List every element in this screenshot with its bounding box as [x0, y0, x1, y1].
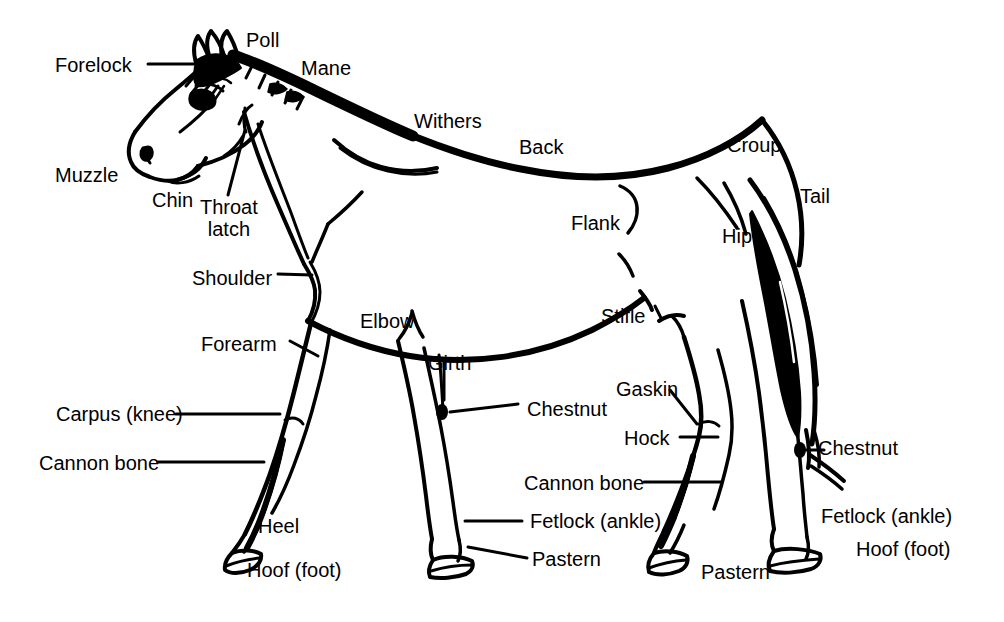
label-fetlock-front: Fetlock (ankle)	[530, 510, 661, 532]
label-chestnut-front: Chestnut	[527, 398, 607, 420]
label-pastern-hind: Pastern	[701, 561, 770, 583]
label-forelock: Forelock	[55, 54, 132, 76]
label-hoof-foot-hind: Hoof (foot)	[856, 538, 950, 560]
label-chin: Chin	[152, 189, 193, 211]
label-gaskin: Gaskin	[616, 378, 678, 400]
label-stifle: Stifle	[601, 305, 645, 327]
label-girth: Girth	[428, 352, 471, 374]
label-back: Back	[519, 136, 563, 158]
label-forearm: Forearm	[201, 333, 277, 355]
label-flank: Flank	[571, 212, 620, 234]
label-tail: Tail	[800, 185, 830, 207]
label-shoulder: Shoulder	[192, 267, 272, 289]
label-withers: Withers	[414, 110, 482, 132]
label-pastern-front: Pastern	[532, 548, 601, 570]
horse-line-art	[0, 0, 1004, 622]
label-throat-latch: Throat latch	[200, 196, 258, 240]
label-mane: Mane	[301, 57, 351, 79]
label-fetlock-hind: Fetlock (ankle)	[821, 505, 952, 527]
label-poll: Poll	[246, 29, 279, 51]
label-hoof-foot-fr: Hoof (foot)	[247, 559, 341, 581]
label-heel: Heel	[258, 515, 299, 537]
horse-anatomy-diagram: ForelockPollManeWithersBackCroupTailHipF…	[0, 0, 1004, 622]
label-hock: Hock	[624, 427, 670, 449]
label-carpus-knee: Carpus (knee)	[56, 403, 183, 425]
label-chestnut-hind: Chestnut	[818, 437, 898, 459]
label-muzzle: Muzzle	[55, 164, 118, 186]
label-elbow: Elbow	[360, 310, 414, 332]
label-cannon-bone-fr: Cannon bone	[39, 452, 159, 474]
label-cannon-bone-hind: Cannon bone	[524, 472, 644, 494]
label-hip: Hip	[722, 225, 752, 247]
label-croup: Croup	[727, 134, 781, 156]
